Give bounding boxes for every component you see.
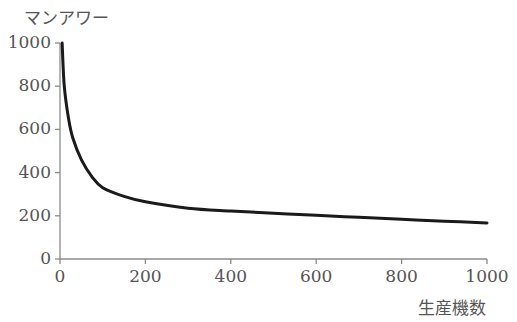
data-line xyxy=(62,43,487,223)
x-tick-label: 600 xyxy=(300,266,332,286)
y-axis-label: マンアワー xyxy=(24,4,109,29)
y-tick-label: 600 xyxy=(19,118,51,138)
y-tick-label: 800 xyxy=(19,75,51,95)
x-tick-label: 1000 xyxy=(465,266,508,286)
y-tick-label: 200 xyxy=(19,205,51,225)
x-axis-label: 生産機数 xyxy=(418,294,486,319)
x-tick-label: 200 xyxy=(129,266,161,286)
y-tick-label: 1000 xyxy=(8,32,51,52)
y-tick-label: 400 xyxy=(19,162,51,182)
x-tick-label: 0 xyxy=(55,266,66,286)
chart-canvas xyxy=(0,0,517,322)
x-tick-label: 800 xyxy=(385,266,417,286)
x-tick-label: 400 xyxy=(215,266,247,286)
y-tick-label: 0 xyxy=(40,248,51,268)
